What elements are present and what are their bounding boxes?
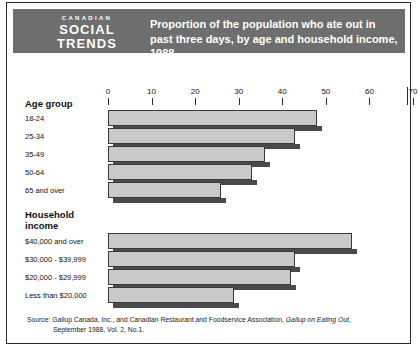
x-tick-label-60: 60 — [365, 87, 374, 96]
category-label-age-4: 65 and over — [25, 186, 65, 196]
bar-age-3 — [108, 164, 252, 180]
chart-title: Proportion of the population who ate out… — [150, 17, 399, 61]
group-title-age: Age group — [25, 98, 73, 109]
bar-age-0 — [108, 110, 317, 126]
source-line1-suffix: , — [349, 316, 351, 323]
x-tick-mark-30 — [239, 98, 240, 105]
publication-logo: CANADIAN SOCIAL TRENDS — [35, 14, 139, 51]
chart-figure: CANADIAN SOCIAL TRENDS Proportion of the… — [6, 2, 411, 344]
bar-age-4 — [108, 182, 221, 198]
x-tick-mark-20 — [195, 98, 196, 105]
x-tick-mark-50 — [326, 98, 327, 105]
x-tick-mark-40 — [282, 98, 283, 105]
chart-header-band: CANADIAN SOCIAL TRENDS Proportion of the… — [13, 9, 405, 53]
category-label-age-1: 25-34 — [25, 132, 44, 142]
source-publication-title: Gallup on Eating Out — [286, 316, 349, 323]
bar-shadow — [113, 198, 226, 203]
bar-income-1 — [108, 251, 295, 267]
brand-line-2: TRENDS — [35, 37, 139, 51]
category-label-income-1: $30,000 - $39,999 — [25, 255, 86, 265]
x-tick-label-50: 50 — [321, 87, 330, 96]
x-tick-mark-60 — [369, 98, 370, 105]
bar-age-2 — [108, 146, 265, 162]
x-tick-label-30: 30 — [234, 87, 243, 96]
category-label-income-0: $40,000 and over — [25, 237, 83, 247]
x-tick-label-40: 40 — [278, 87, 287, 96]
source-line2: September 1988, Vol. 2, No.1. — [53, 325, 398, 335]
x-tick-label-20: 20 — [191, 87, 200, 96]
x-tick-label-0: 0 — [106, 87, 110, 96]
category-label-age-2: 35-49 — [25, 150, 44, 160]
category-label-income-3: Less than $20,000 — [25, 291, 87, 301]
category-label-age-3: 50-64 — [25, 168, 44, 178]
bar-income-3 — [108, 287, 234, 303]
source-line1-prefix: Source: Gallup Canada, Inc., and Canadia… — [27, 316, 286, 323]
group-title-income-line2: income — [25, 220, 58, 231]
bar-income-0 — [108, 233, 352, 249]
x-tick-label-70: 70 — [409, 87, 418, 96]
x-axis-end-tick — [407, 87, 408, 105]
source-note: Source: Gallup Canada, Inc., and Canadia… — [27, 315, 398, 334]
x-tick-mark-0 — [108, 98, 109, 105]
category-label-income-2: $20,000 - $29,999 — [25, 273, 86, 283]
group-title-income: Household — [25, 209, 74, 220]
x-tick-mark-10 — [152, 98, 153, 105]
bar-shadow — [113, 303, 239, 308]
x-tick-mark-70 — [413, 98, 414, 105]
category-label-age-0: 18-24 — [25, 114, 44, 124]
bar-age-1 — [108, 128, 295, 144]
x-tick-label-10: 10 — [147, 87, 156, 96]
brand-line-1: SOCIAL — [35, 23, 139, 37]
bar-income-2 — [108, 269, 291, 285]
